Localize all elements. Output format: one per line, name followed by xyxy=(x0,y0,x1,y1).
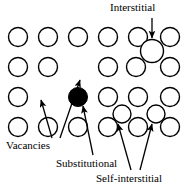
lattice-atom xyxy=(69,118,88,137)
lattice-atom xyxy=(39,58,58,77)
lattice-defect-figure: Interstitial Vacancies Substitutional Se… xyxy=(0,0,184,187)
defect-atom-group xyxy=(69,40,166,124)
lattice-atom xyxy=(99,88,118,107)
lattice-atom xyxy=(99,58,118,77)
label-interstitial: Interstitial xyxy=(110,1,155,13)
self-interstitial-atom xyxy=(147,105,165,123)
lattice-atom xyxy=(127,58,146,77)
lattice-atom xyxy=(9,28,28,47)
lattice-atom xyxy=(9,58,28,77)
lattice-atom xyxy=(161,88,180,107)
lattice-atom xyxy=(129,88,148,107)
lattice-atom xyxy=(9,118,28,137)
lattice-atom xyxy=(99,118,118,137)
interstitial-atom xyxy=(141,40,164,63)
self-interstitial-atom xyxy=(113,105,131,123)
lattice-atom xyxy=(69,28,88,47)
label-substitutional: Substitutional xyxy=(56,157,117,169)
label-vacancies: Vacancies xyxy=(6,139,50,151)
lattice-atom xyxy=(129,118,148,137)
lattice-atom xyxy=(39,118,58,137)
lattice-atom xyxy=(9,88,28,107)
lattice-atom xyxy=(161,58,180,77)
lattice-atom xyxy=(99,28,118,47)
label-self-interstitial: Self-interstitial xyxy=(96,172,162,184)
lattice-atom xyxy=(39,28,58,47)
lattice-atom xyxy=(161,28,180,47)
lattice-atom xyxy=(161,118,180,137)
